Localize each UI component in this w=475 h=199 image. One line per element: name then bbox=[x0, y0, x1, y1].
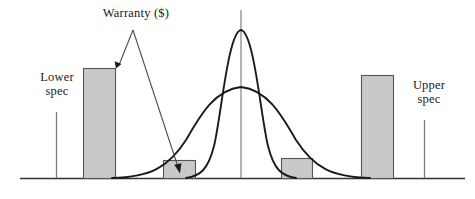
bar-right-tall bbox=[362, 76, 394, 179]
warranty-loss-figure: Lower spec Upper spec Warranty ($) bbox=[0, 0, 475, 199]
warranty-leader-right bbox=[133, 30, 178, 167]
warranty-label: Warranty ($) bbox=[76, 6, 196, 20]
lower-spec-label: Lower spec bbox=[26, 70, 88, 98]
upper-spec-label: Upper spec bbox=[398, 78, 460, 106]
warranty-leader-left bbox=[119, 30, 133, 65]
bar-left-tall bbox=[84, 69, 116, 179]
